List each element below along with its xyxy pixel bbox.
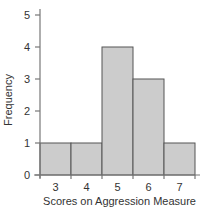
bars-group — [40, 47, 195, 175]
x-tick-label: 6 — [145, 181, 151, 193]
bar-6 — [133, 79, 164, 175]
y-tick-label: 2 — [24, 105, 30, 117]
x-tick-label: 4 — [83, 181, 89, 193]
bar-4 — [71, 143, 102, 175]
x-ticks-group: 34567 — [40, 175, 195, 193]
x-axis-title: Scores on Aggression Measure — [43, 195, 196, 207]
bar-3 — [40, 143, 71, 175]
y-ticks-group: 012345 — [24, 9, 40, 181]
y-axis-title: Frequency — [2, 74, 14, 126]
bar-5 — [102, 47, 133, 175]
histogram-chart: 012345 34567 Scores on Aggression Measur… — [0, 0, 211, 214]
y-tick-label: 4 — [24, 41, 30, 53]
x-tick-label: 3 — [52, 181, 58, 193]
x-tick-label: 5 — [114, 181, 120, 193]
y-tick-label: 3 — [24, 73, 30, 85]
x-tick-label: 7 — [176, 181, 182, 193]
y-tick-label: 0 — [24, 169, 30, 181]
y-tick-label: 1 — [24, 137, 30, 149]
y-tick-label: 5 — [24, 9, 30, 21]
bar-7 — [164, 143, 195, 175]
